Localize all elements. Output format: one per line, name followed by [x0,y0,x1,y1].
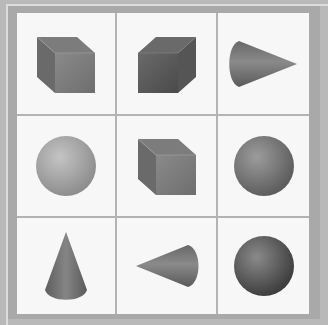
cube-icon [35,33,97,95]
cell-r2-c1 [17,116,117,218]
cell-r2-c3 [218,116,309,218]
cone-icon [229,39,299,89]
cell-r1-c1 [17,13,117,116]
sphere-icon [35,135,97,197]
sphere-icon [233,235,295,297]
shape-grid [17,13,309,314]
cell-r3-c1 [17,218,117,314]
cell-r3-c3 [218,218,309,314]
cell-r3-c2 [117,218,218,314]
sphere-icon [233,135,295,197]
cone-icon [43,230,89,302]
outer-frame [0,0,328,325]
cell-r2-c2 [117,116,218,218]
cone-icon [134,243,200,289]
cell-r1-c3 [218,13,309,116]
cube-icon [136,33,198,95]
cell-r1-c2 [117,13,218,116]
cube-icon [136,135,198,197]
